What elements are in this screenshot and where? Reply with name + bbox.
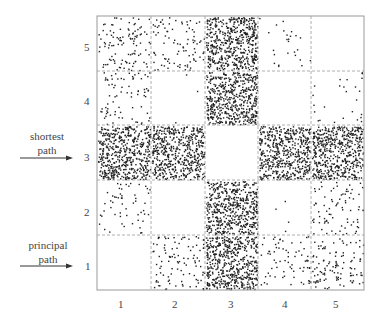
x-tick-4: 4	[282, 299, 288, 310]
y-tick-4: 4	[84, 96, 90, 107]
y-tick-2: 2	[84, 207, 90, 218]
y-tick-3: 3	[84, 152, 90, 163]
principal-path-label: principal path	[20, 240, 76, 265]
scatter-grid-chart	[0, 0, 382, 325]
x-tick-3: 3	[228, 299, 234, 310]
shortest-path-arrow	[20, 156, 73, 161]
shortest-path-label: shortest path	[22, 131, 72, 156]
x-tick-5: 5	[333, 299, 339, 310]
x-tick-1: 1	[118, 299, 124, 310]
shortest-label-line1: shortest	[22, 131, 72, 142]
shortest-label-line2: path	[22, 145, 72, 156]
y-tick-5: 5	[84, 42, 90, 53]
y-tick-1: 1	[85, 261, 91, 272]
x-tick-2: 2	[172, 299, 178, 310]
scatter-points	[98, 17, 364, 290]
principal-label-line2: path	[20, 254, 76, 265]
principal-label-line1: principal	[20, 240, 76, 251]
